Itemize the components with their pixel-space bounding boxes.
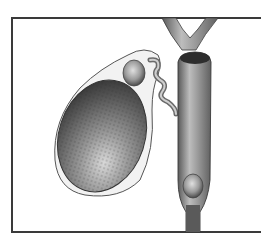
gallstone-neck [123,60,145,86]
gallbladder-illustration [0,0,261,244]
gallstone-bile-duct [183,174,203,198]
hepatic-ducts [162,18,218,50]
common-bile-duct [178,52,211,232]
